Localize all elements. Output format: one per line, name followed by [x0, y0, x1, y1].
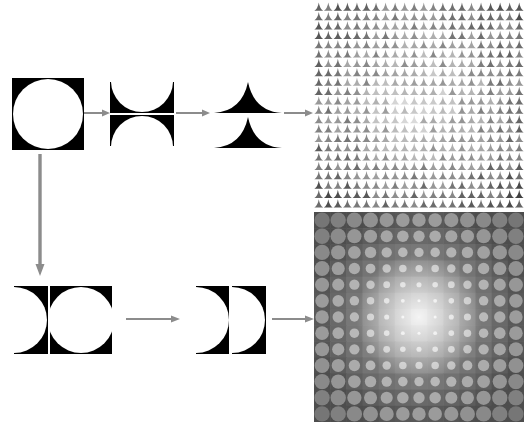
- lens-motif: [411, 406, 428, 422]
- lens-motif: [362, 212, 379, 229]
- lens-motif: [411, 390, 428, 407]
- lens-texture-field: [314, 212, 524, 422]
- arrow-bottom-1: [126, 313, 180, 325]
- lens-motif: [346, 244, 363, 261]
- lens-motif: [508, 244, 524, 261]
- lens-motif: [330, 260, 347, 277]
- lens-motif: [492, 357, 509, 374]
- lens-motif: [314, 309, 331, 326]
- figure-root: [0, 0, 526, 439]
- spike-texture-field: [314, 2, 524, 208]
- lens-motif: [330, 357, 347, 374]
- arrow-down-icon: [33, 154, 47, 276]
- circle-tile-right-half: [14, 286, 48, 354]
- lens-motif: [314, 325, 331, 342]
- lens-motif: [330, 228, 347, 245]
- lens-motif: [427, 390, 444, 407]
- circle-tile-upper-half: [110, 115, 174, 146]
- lens-motif: [346, 260, 363, 277]
- lens-motif: [346, 390, 363, 407]
- lens-motif: [476, 357, 493, 374]
- lens-motif: [508, 228, 524, 245]
- lens-motif: [330, 406, 347, 422]
- crescent-left-glyph: [196, 286, 229, 354]
- lens-motif: [314, 244, 331, 261]
- lens-motif: [314, 277, 331, 294]
- lens-motif: [427, 212, 444, 229]
- lens-motif: [492, 341, 509, 358]
- tile-circle-in-square: [12, 78, 84, 150]
- lens-motif: [508, 357, 524, 374]
- lens-motif: [508, 341, 524, 358]
- tile-half-swap-vertical: [110, 82, 174, 146]
- arrow-right-icon: [176, 107, 210, 119]
- lens-motif: [411, 228, 428, 245]
- lens-motif: [476, 212, 493, 229]
- arrow-right-icon: [126, 313, 180, 325]
- lens-motif: [346, 357, 363, 374]
- lens-motif: [314, 293, 331, 310]
- lens-motif: [508, 390, 524, 407]
- crescent-left: [196, 286, 229, 354]
- lens-motif: [492, 325, 509, 342]
- lens-motif: [492, 390, 509, 407]
- lens-motif: [508, 374, 524, 391]
- lens-motif: [476, 390, 493, 407]
- lens-motif: [314, 374, 331, 391]
- lens-motif: [508, 309, 524, 326]
- lens-motif: [443, 374, 460, 391]
- lens-motif: [346, 341, 363, 358]
- tile-spikes-stacked: [212, 80, 284, 150]
- arrow-bottom-2: [272, 313, 314, 325]
- lens-motif: [476, 406, 493, 422]
- lens-motif: [362, 374, 379, 391]
- lens-motif: [314, 228, 331, 245]
- tile-crescents: [196, 286, 266, 354]
- lens-motif: [314, 341, 331, 358]
- lens-motif: [395, 406, 412, 422]
- lens-motif: [492, 228, 509, 245]
- lens-motif: [459, 244, 476, 261]
- double-spike-glyph: [212, 80, 284, 150]
- lens-motif: [330, 277, 347, 294]
- lens-motif: [379, 244, 396, 261]
- lens-motif: [443, 390, 460, 407]
- lens-motif: [492, 244, 509, 261]
- lens-motif: [314, 390, 331, 407]
- lens-motif: [476, 244, 493, 261]
- half-swap-vertical-lower: [110, 115, 174, 146]
- lens-motif: [379, 228, 396, 245]
- arrow-right-icon: [284, 107, 313, 119]
- lens-motif: [492, 277, 509, 294]
- lens-motif: [314, 260, 331, 277]
- lens-motif: [346, 277, 363, 294]
- arrow-top-3: [284, 107, 313, 119]
- lens-motif: [314, 406, 331, 422]
- lens-motif: [459, 374, 476, 391]
- lens-motif: [379, 374, 396, 391]
- lens-motif: [330, 325, 347, 342]
- lens-motif: [508, 325, 524, 342]
- lens-motif: [346, 228, 363, 245]
- lens-motif: [379, 212, 396, 229]
- lens-motif: [476, 374, 493, 391]
- lens-motif: [459, 406, 476, 422]
- lens-motif: [379, 406, 396, 422]
- arrow-right-icon: [84, 107, 110, 119]
- circle-in-square-glyph: [12, 78, 84, 150]
- center-bloom: [356, 254, 482, 380]
- half-swap-vertical-upper: [110, 82, 174, 113]
- lens-motif: [492, 309, 509, 326]
- lens-motif: [314, 212, 331, 229]
- lens-motif: [443, 228, 460, 245]
- lens-motif: [330, 244, 347, 261]
- lens-motif: [443, 244, 460, 261]
- lens-motif: [508, 212, 524, 229]
- lens-motif: [508, 277, 524, 294]
- lens-motif: [395, 390, 412, 407]
- lens-motif: [330, 293, 347, 310]
- figure-caption: [0, 425, 526, 439]
- crescent-right-glyph: [232, 286, 266, 354]
- lens-motif: [508, 260, 524, 277]
- tile-half-swap-horizontal: [14, 286, 112, 354]
